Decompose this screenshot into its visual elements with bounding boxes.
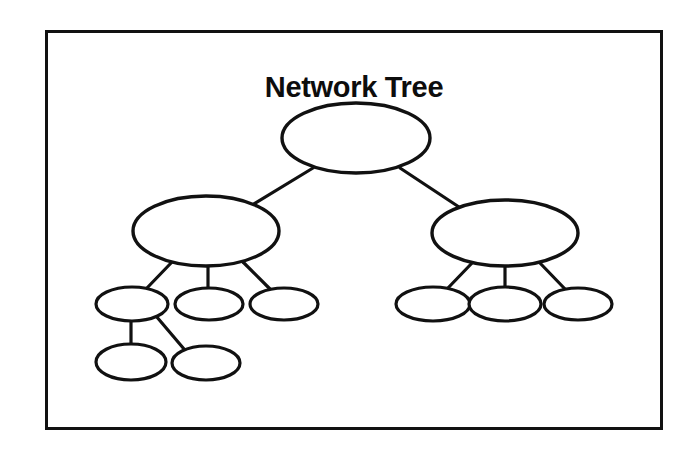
page-title: Network Tree	[48, 73, 660, 102]
diagram-border: Network Tree	[45, 30, 663, 430]
diagram-canvas: Network Tree	[0, 0, 697, 453]
